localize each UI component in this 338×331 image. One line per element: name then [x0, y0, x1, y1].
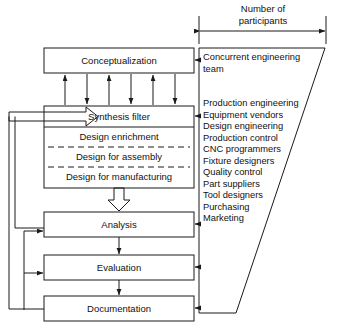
- box-label-conceptualization: Conceptualization: [44, 55, 194, 66]
- row-label-design-for-assembly: Design for assembly: [44, 151, 194, 162]
- participants-header-line1: Number of: [219, 3, 307, 15]
- participant-line: team: [203, 64, 300, 76]
- participants-header-line2: participants: [219, 15, 307, 27]
- feedback-loops: [9, 117, 44, 311]
- hollow-down-block-arrow-icon: [108, 188, 130, 211]
- row-label-design-for-manufacturing: Design for manufacturing: [44, 171, 194, 182]
- participants-roles-group: Production engineering Equipment vendors…: [203, 98, 299, 225]
- participant-line: Fixture designers: [203, 156, 299, 168]
- participant-line: Tool designers: [203, 190, 299, 202]
- participant-line: Design engineering: [203, 121, 299, 133]
- concurrent-engineering-diagram: Number of participants Conceptualization…: [0, 0, 338, 331]
- participant-line: Equipment vendors: [203, 110, 299, 122]
- box-label-documentation: Documentation: [44, 303, 194, 314]
- participants-header: Number of participants: [219, 3, 307, 26]
- participant-line: Purchasing: [203, 202, 299, 214]
- participants-team-group: Concurrent engineering team: [203, 52, 300, 75]
- panel-arrows: [195, 60, 198, 308]
- box-label-evaluation: Evaluation: [44, 262, 194, 273]
- participant-line: CNC programmers: [203, 144, 299, 156]
- participant-line: Quality control: [203, 167, 299, 179]
- box-label-analysis: Analysis: [44, 219, 194, 230]
- participant-line: Production control: [203, 133, 299, 145]
- participant-line: Concurrent engineering: [203, 52, 300, 64]
- participant-line: Production engineering: [203, 98, 299, 110]
- box-label-synthesis-filter: Synthesis filter: [44, 111, 194, 122]
- participant-line: Marketing: [203, 213, 299, 225]
- participant-line: Part suppliers: [203, 179, 299, 191]
- exchange-arrows: [65, 74, 175, 105]
- row-label-design-enrichment: Design enrichment: [44, 131, 194, 142]
